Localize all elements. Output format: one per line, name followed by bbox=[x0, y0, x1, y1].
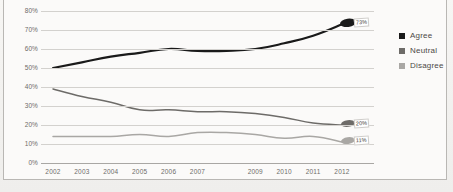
y-axis-tick-label: 20% bbox=[4, 121, 38, 128]
gridline bbox=[41, 87, 374, 88]
x-axis-tick-label: 2002 bbox=[45, 168, 60, 175]
chart-screenshot: 80%70%60%50%40%30%20%10%0% 73%20%11% 200… bbox=[0, 0, 453, 192]
y-axis-tick-label: 10% bbox=[4, 140, 38, 147]
legend-swatch-icon bbox=[399, 33, 405, 39]
gridline bbox=[41, 144, 374, 145]
x-axis-tick-label: 2005 bbox=[132, 168, 147, 175]
y-axis-tick-label: 70% bbox=[4, 26, 38, 33]
y-axis-tick-label: 40% bbox=[4, 83, 38, 90]
x-axis-tick-label: 2010 bbox=[277, 168, 292, 175]
legend-item-label: Disagree bbox=[410, 61, 444, 70]
y-axis-tick-label: 60% bbox=[4, 45, 38, 52]
legend-item-label: Agree bbox=[410, 31, 432, 40]
chart-legend: AgreeNeutralDisagree bbox=[399, 28, 453, 73]
y-axis-tick-label: 30% bbox=[4, 102, 38, 109]
endpoint-value-label-disagree: 11% bbox=[354, 136, 369, 146]
gridline bbox=[41, 49, 374, 50]
chart-figure: 80%70%60%50%40%30%20%10%0% 73%20%11% 200… bbox=[0, 0, 453, 192]
gridline bbox=[41, 68, 374, 69]
legend-item-disagree[interactable]: Disagree bbox=[399, 58, 453, 73]
legend-swatch-icon bbox=[399, 48, 405, 54]
x-axis-tick-label: 2007 bbox=[190, 168, 205, 175]
gridline bbox=[41, 30, 374, 31]
legend-item-agree[interactable]: Agree bbox=[399, 28, 453, 43]
x-axis-tick-label: 2003 bbox=[74, 168, 89, 175]
y-axis-tick-label: 80% bbox=[4, 7, 38, 14]
legend-swatch-icon bbox=[399, 63, 405, 69]
endpoint-value-label-neutral: 20% bbox=[354, 118, 370, 128]
legend-item-neutral[interactable]: Neutral bbox=[399, 43, 453, 58]
gridline bbox=[41, 125, 374, 126]
gridline bbox=[41, 163, 374, 164]
series-line-disagree bbox=[53, 132, 342, 142]
y-axis-tick-label: 0% bbox=[4, 159, 38, 166]
x-axis-tick-label: 2004 bbox=[103, 168, 118, 175]
plot-area: 73%20%11% bbox=[41, 11, 374, 163]
gridline bbox=[41, 106, 374, 107]
legend-item-label: Neutral bbox=[410, 46, 437, 55]
y-axis-tick-label: 50% bbox=[4, 64, 38, 71]
x-axis: 2002200320042005200620072009201020112012 bbox=[41, 166, 374, 180]
x-axis-tick-label: 2009 bbox=[248, 168, 263, 175]
gridline bbox=[41, 11, 374, 12]
endpoint-value-label-agree: 73% bbox=[354, 18, 370, 28]
x-axis-tick-label: 2011 bbox=[306, 168, 321, 175]
x-axis-tick-label: 2012 bbox=[334, 168, 349, 175]
y-axis: 80%70%60%50%40%30%20%10%0% bbox=[0, 11, 38, 163]
x-axis-tick-label: 2006 bbox=[161, 168, 176, 175]
chart-title bbox=[56, 0, 356, 3]
